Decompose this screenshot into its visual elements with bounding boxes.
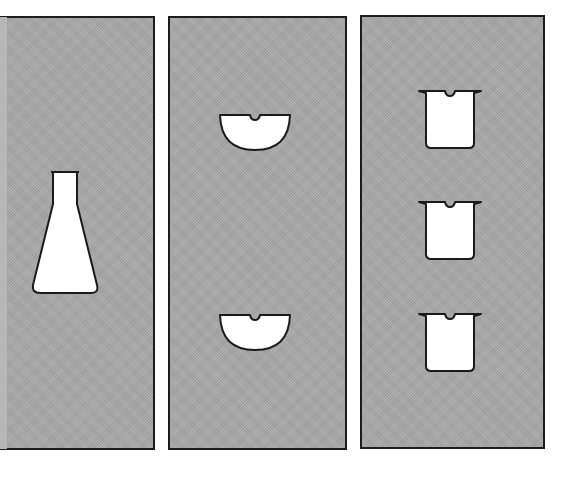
evaporating-dish-icon [218,312,294,354]
beaker-icon [417,311,483,375]
beaker-icon [417,88,483,152]
left-panel-edge-shade [0,17,7,449]
erlenmeyer-flask-icon [28,168,104,298]
middle-panel [168,16,347,450]
evaporating-dish-icon [218,112,294,154]
beaker-icon [417,199,483,263]
